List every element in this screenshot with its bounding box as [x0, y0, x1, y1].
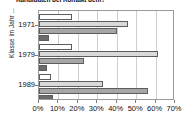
x-tick-mark	[155, 100, 156, 103]
chart-title: Kandidaten bei Kontakt dem?	[16, 0, 176, 4]
bar-1979-series-1	[39, 44, 72, 50]
y-axis-tick-labels: 1971 1979 1989	[0, 10, 35, 100]
bar-1989-series-3	[39, 88, 148, 94]
plot-area	[38, 10, 174, 100]
x-tick-mark	[57, 100, 58, 103]
bar-group-1989	[39, 71, 173, 100]
x-tick-mark	[38, 100, 39, 103]
y-tick-label-1989: 1989	[1, 80, 35, 89]
bar-1971-series-1	[39, 14, 72, 20]
x-tick-mark	[116, 100, 117, 103]
bar-group-1979	[39, 41, 173, 71]
bar-chart: Kandidaten bei Kontakt dem? Klasse im Ja…	[0, 0, 186, 120]
x-tick-mark	[135, 100, 136, 103]
x-tick-mark	[77, 100, 78, 103]
bar-1979-series-2	[39, 51, 158, 57]
bar-1989-series-1	[39, 74, 51, 80]
bar-group-1971	[39, 11, 173, 41]
bar-1989-series-2	[39, 81, 103, 87]
y-tick-label-1971: 1971	[1, 20, 35, 29]
x-tick-mark	[174, 100, 175, 103]
bar-1971-series-2	[39, 21, 128, 27]
x-axis-tick-labels: 0%10%20%30%40%50%60%70%	[38, 100, 174, 116]
bar-1971-series-3	[39, 28, 117, 34]
y-tick-label-1979: 1979	[1, 50, 35, 59]
bar-1979-series-3	[39, 58, 84, 64]
x-tick-mark	[96, 100, 97, 103]
x-tick-label-70%: 70%	[161, 104, 186, 114]
